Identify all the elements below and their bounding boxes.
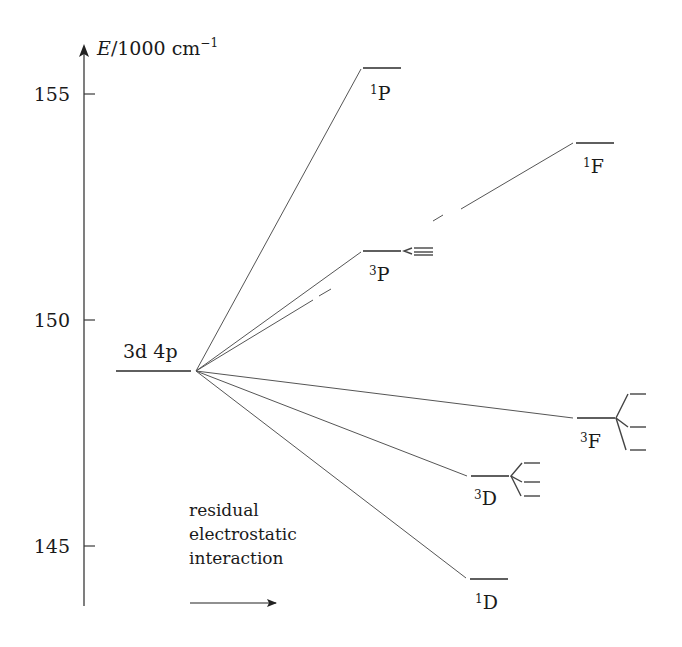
configuration-level: 3d 4p	[116, 340, 191, 371]
energy-axis: E/1000 cm−1 155 150 145	[34, 36, 218, 606]
fine-structure-branch	[404, 248, 412, 254]
annotation-line-2: electrostatic	[189, 524, 297, 544]
connector-1F-dash-2	[433, 215, 443, 221]
term-3P-label: 3P	[369, 263, 390, 285]
term-3F-fine-structure	[616, 394, 646, 450]
annotation-line-1: residual	[189, 500, 259, 520]
term-1D: 1D	[470, 579, 508, 613]
term-1F: 1F	[576, 143, 614, 177]
axis-label: E/1000 cm−1	[96, 36, 218, 59]
connector-1P	[196, 69, 361, 371]
energy-level-diagram: E/1000 cm−1 155 150 145 3d 4p 1P 1F	[0, 0, 682, 647]
term-3D: 3D	[471, 463, 540, 509]
connector-3D	[196, 371, 467, 476]
config-label: 3d 4p	[123, 340, 178, 362]
tick-label-155: 155	[34, 83, 70, 105]
connector-3F	[196, 371, 573, 418]
fine-structure-branch-lower	[616, 418, 626, 450]
connector-3P	[196, 252, 361, 371]
term-3D-label: 3D	[474, 487, 497, 509]
annotation-line-3: interaction	[189, 548, 284, 568]
interaction-annotation: residual electrostatic interaction	[189, 500, 297, 603]
term-3P: 3P	[363, 248, 433, 285]
connector-1F-segment-b	[461, 143, 573, 209]
term-3F: 3F	[577, 394, 646, 452]
connector-1D	[196, 371, 466, 578]
term-3P-fine-structure	[404, 248, 433, 255]
tick-label-145: 145	[34, 535, 70, 557]
term-1P: 1P	[363, 68, 401, 104]
term-1P-label: 1P	[370, 82, 391, 104]
term-1D-label: 1D	[475, 591, 498, 613]
term-1F-label: 1F	[583, 155, 604, 177]
term-3D-fine-structure	[511, 463, 540, 496]
term-3F-label: 3F	[580, 430, 601, 452]
connector-1F-dash-1	[319, 289, 331, 296]
tick-label-150: 150	[34, 309, 70, 331]
connector-1F-segment-a	[196, 300, 313, 371]
